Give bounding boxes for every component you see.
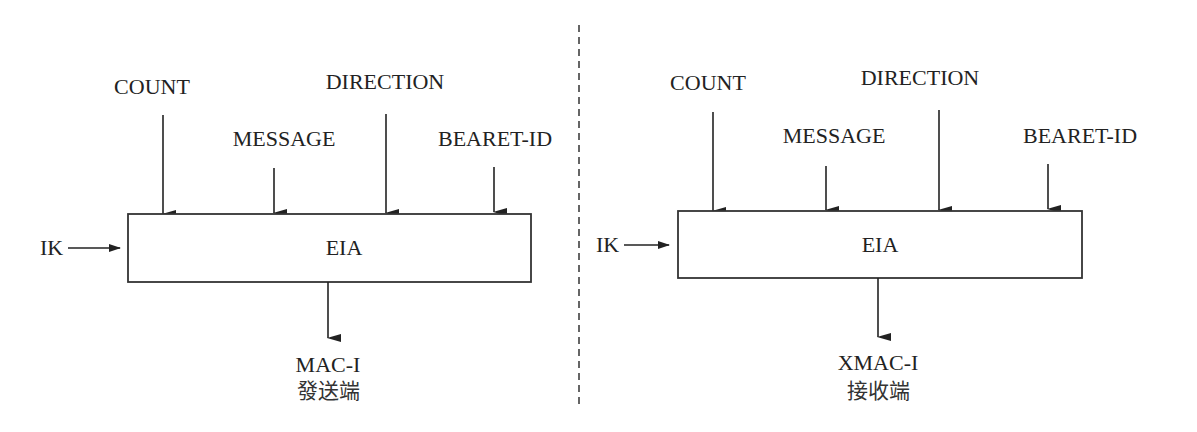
mac-i-label: MAC-I — [296, 352, 361, 377]
receiver-caption: 接收端 — [847, 379, 910, 403]
count-label: COUNT — [670, 70, 746, 95]
bearer-id-label: BEARET-ID — [1023, 123, 1137, 148]
message-label: MESSAGE — [783, 123, 886, 148]
sender-panel: COUNT MESSAGE DIRECTION BEARET-ID EIA IK… — [40, 69, 552, 403]
direction-label: DIRECTION — [861, 65, 980, 90]
xmac-i-label: XMAC-I — [838, 350, 919, 375]
sender-caption: 發送端 — [297, 379, 360, 403]
ik-label: IK — [40, 235, 63, 260]
eia-block-label: EIA — [862, 232, 899, 257]
bearer-id-label: BEARET-ID — [438, 126, 552, 151]
message-label: MESSAGE — [233, 126, 336, 151]
eia-block-label: EIA — [326, 235, 363, 260]
ik-label: IK — [596, 232, 619, 257]
receiver-panel: COUNT MESSAGE DIRECTION BEARET-ID EIA IK… — [596, 65, 1137, 403]
direction-label: DIRECTION — [326, 69, 445, 94]
count-label: COUNT — [114, 74, 190, 99]
eia-integrity-diagram: COUNT MESSAGE DIRECTION BEARET-ID EIA IK… — [0, 0, 1197, 432]
